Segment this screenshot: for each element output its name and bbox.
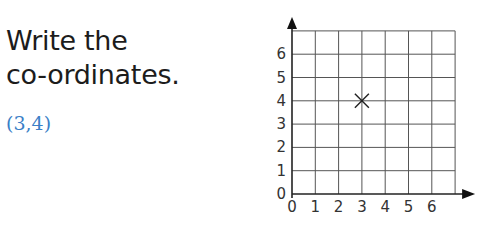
x-tick-label: 1: [311, 198, 321, 216]
y-tick-label: 4: [276, 92, 286, 110]
coordinate-grid: 01234560123456: [0, 0, 479, 238]
x-axis-arrow-icon: [462, 189, 475, 199]
y-tick-label: 3: [276, 115, 286, 133]
y-axis-arrow-icon: [287, 17, 297, 29]
x-tick-label: 2: [334, 198, 344, 216]
y-tick-label: 1: [276, 162, 286, 180]
x-tick-label: 4: [380, 198, 390, 216]
x-tick-label: 5: [404, 198, 414, 216]
grid-lines: [292, 31, 455, 194]
y-tick-label: 5: [276, 69, 286, 87]
x-tick-label: 0: [287, 198, 297, 216]
y-tick-label: 6: [276, 45, 286, 63]
y-tick-label: 0: [276, 185, 286, 203]
x-tick-label: 6: [427, 198, 437, 216]
x-tick-label: 3: [357, 198, 367, 216]
y-tick-label: 2: [276, 138, 286, 156]
